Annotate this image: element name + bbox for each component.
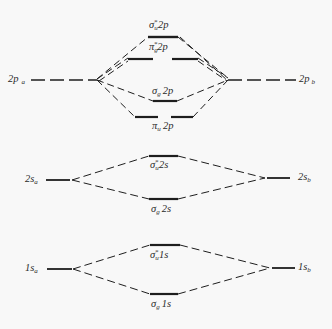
label-2p-a: 2pa: [8, 74, 25, 85]
label-sigma-g-2s: σg 2s: [151, 204, 171, 215]
label-2s-a: 2sa: [25, 174, 38, 185]
label-pi-u-2p: πu 2p: [152, 121, 173, 132]
label-sigma-u-star-2s: σu* 2s: [150, 160, 168, 171]
correlation-lines-2s: [72, 156, 265, 199]
label-sigma-g-2p: σg 2p: [152, 86, 173, 97]
label-1s-b: 1sb: [298, 262, 311, 273]
label-sigma-g-1s: σg 1s: [151, 299, 171, 310]
label-sigma-u-star-2p: σu* 2p: [149, 20, 169, 31]
label-2s-b: 2sb: [298, 172, 311, 183]
label-1s-a: 1sa: [25, 263, 38, 274]
label-sigma-u-star-1s: σu* 1s: [150, 250, 168, 261]
correlation-lines-1s: [73, 245, 270, 294]
label-pi-g-star-2p: πg*2p: [149, 42, 168, 53]
label-2p-b: 2pb: [299, 74, 315, 85]
